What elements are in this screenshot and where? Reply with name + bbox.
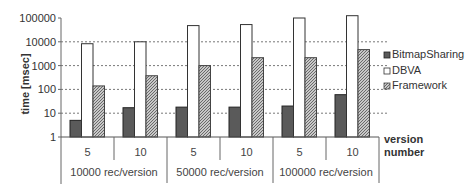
y-tick-label: 100000: [19, 12, 56, 24]
bar-bitmapsharing: [229, 107, 241, 137]
bar-framework: [305, 58, 317, 137]
version-label: 5: [84, 146, 90, 158]
group-label: 100000 rec/version: [279, 166, 373, 178]
version-label: 10: [346, 146, 358, 158]
bar-dbva: [294, 18, 306, 137]
y-tick-label: 100: [38, 83, 56, 95]
legend-swatch-bitmapsharing: [384, 52, 390, 58]
version-label: 5: [296, 146, 302, 158]
x-axis-label-line2: number: [384, 146, 425, 158]
bar-dbva: [241, 25, 253, 137]
group-label: 10000 rec/version: [70, 166, 157, 178]
y-tick-label: 1000: [32, 60, 56, 72]
bars: [70, 16, 370, 137]
group-label: 50000 rec/version: [176, 166, 263, 178]
version-label: 5: [190, 146, 196, 158]
version-label: 10: [134, 146, 146, 158]
legend-label: DBVA: [392, 64, 422, 76]
legend: BitmapSharingDBVAFramework: [384, 48, 464, 91]
version-label: 10: [240, 146, 252, 158]
bar-dbva: [135, 42, 147, 137]
bar-framework: [358, 50, 370, 137]
bar-bitmapsharing: [335, 95, 347, 137]
y-tick-label: 1: [50, 131, 56, 143]
bar-bitmapsharing: [176, 107, 188, 137]
y-tick-label: 10: [44, 107, 56, 119]
x-axis-label-line1: version: [384, 133, 423, 145]
bar-chart: 110100100010000100000 51010000 rec/versi…: [0, 0, 469, 184]
bar-bitmapsharing: [70, 120, 82, 137]
legend-label: Framework: [392, 79, 448, 91]
bar-bitmapsharing: [123, 108, 135, 137]
bar-framework: [93, 86, 105, 137]
legend-swatch-dbva: [384, 68, 390, 74]
bar-framework: [146, 76, 158, 137]
legend-label: BitmapSharing: [392, 48, 464, 60]
bar-framework: [252, 58, 264, 137]
y-axis-label: time [msec]: [19, 53, 31, 114]
bar-dbva: [82, 44, 94, 137]
bar-bitmapsharing: [282, 106, 294, 137]
bar-dbva: [188, 26, 200, 137]
legend-swatch-framework: [384, 83, 390, 89]
bar-dbva: [347, 16, 359, 137]
bar-framework: [199, 66, 211, 137]
category-labels: 51010000 rec/version51050000 rec/version…: [70, 137, 379, 183]
y-tick-label: 10000: [25, 36, 56, 48]
